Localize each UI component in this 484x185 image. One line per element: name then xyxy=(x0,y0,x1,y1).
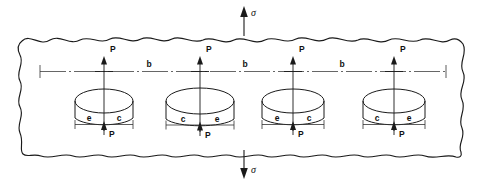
top-stress-label: σ xyxy=(251,7,257,18)
pitch-label-1: b xyxy=(146,59,151,69)
hole-unit-1: P e c P xyxy=(75,44,133,139)
hole-3-right-dim-label: c xyxy=(307,113,312,123)
hole-4-left-dim-label: c xyxy=(375,113,380,123)
hole-2-top-load-label: P xyxy=(206,44,212,54)
hole-4-bottom-load-label: P xyxy=(399,129,405,139)
hole-1-top-load-label: P xyxy=(110,44,116,54)
bottom-stress-arrowhead xyxy=(240,168,248,179)
hole-1-left-dim-label: e xyxy=(87,113,92,123)
hole-unit-4: P c e P xyxy=(363,44,425,139)
pitch-label-3: b xyxy=(339,59,344,69)
plate-outline xyxy=(18,38,464,158)
top-stress-arrow-group: σ xyxy=(240,6,257,36)
hole-1-top-load-arrowhead xyxy=(101,56,107,65)
bottom-stress-arrow-group: σ xyxy=(240,150,257,179)
hole-3-top-load-label: P xyxy=(299,44,305,54)
hole-2-right-dim-label: e xyxy=(215,114,220,124)
figure-container: σ σ b b b xyxy=(0,0,484,185)
hole-4-bottom-load-arrowhead xyxy=(391,121,397,130)
hole-4-top-load-arrowhead xyxy=(391,56,397,65)
hole-unit-2: P c e P xyxy=(166,44,234,140)
hole-2-left-dim-label: c xyxy=(181,114,186,124)
hole-4-right-dim-label: e xyxy=(407,113,412,123)
pitch-label-2: b xyxy=(242,59,247,69)
hole-3-left-dim-label: e xyxy=(275,113,280,123)
hole-unit-3: P e c P xyxy=(262,44,324,139)
hole-2-top-load-arrowhead xyxy=(197,56,203,65)
hole-1-bottom-load-arrowhead xyxy=(101,121,107,130)
hole-1-bottom-load-label: P xyxy=(109,129,115,139)
plate-schematic-svg: σ σ b b b xyxy=(0,0,484,185)
hole-4-top-load-label: P xyxy=(400,44,406,54)
hole-2-bottom-load-label: P xyxy=(205,130,211,140)
hole-3-bottom-load-label: P xyxy=(298,129,304,139)
hole-3-top-load-arrowhead xyxy=(290,56,296,65)
top-stress-arrowhead xyxy=(240,6,248,17)
bottom-stress-label: σ xyxy=(251,164,257,175)
hole-3-bottom-load-arrowhead xyxy=(290,121,296,130)
pitch-labels-group: b b b xyxy=(146,59,344,69)
hole-1-right-dim-label: c xyxy=(117,113,122,123)
